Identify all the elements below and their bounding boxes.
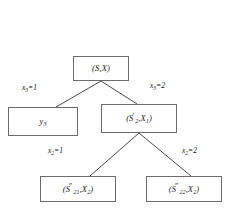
edge-label-internal-to-s22: x2=2 bbox=[182, 147, 197, 155]
tree-node-leaf-s21-x2-label: (S″21,X2) bbox=[63, 185, 93, 194]
tree-node-leaf-s22-x2[interactable]: (S″22,X2) bbox=[146, 176, 222, 202]
edge-label-root-to-y3: x3=1 bbox=[22, 84, 37, 92]
tree-node-leaf-y3-label: y3 bbox=[40, 117, 47, 126]
edge-line-internal-to-s21 bbox=[90, 133, 139, 176]
tree-node-leaf-s21-x2[interactable]: (S″21,X2) bbox=[40, 176, 116, 202]
decision-tree-figure: (S,X) y3 (S′2,X1) (S″21,X2) (S″22,X2) x3… bbox=[0, 0, 231, 214]
tree-node-internal-s2-x1[interactable]: (S′2,X1) bbox=[101, 104, 177, 133]
tree-node-leaf-y3[interactable]: y3 bbox=[8, 107, 78, 136]
tree-node-root[interactable]: (S,X) bbox=[73, 56, 129, 81]
edge-label-root-to-internal: x3=2 bbox=[150, 82, 165, 90]
tree-node-internal-s2-x1-label: (S′2,X1) bbox=[126, 114, 152, 123]
edge-line-root-to-internal bbox=[101, 81, 137, 104]
edge-line-root-to-y3 bbox=[56, 81, 101, 107]
tree-node-root-label: (S,X) bbox=[92, 64, 110, 73]
edge-label-internal-to-s21: x2=1 bbox=[48, 147, 63, 155]
tree-node-leaf-s22-x2-label: (S″22,X2) bbox=[169, 185, 199, 194]
